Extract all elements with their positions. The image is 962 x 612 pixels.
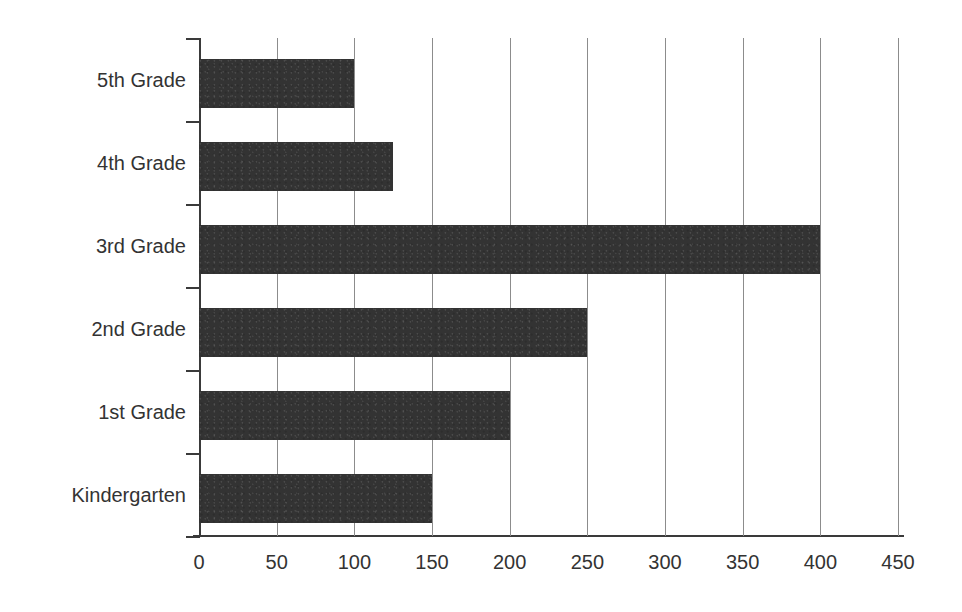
category-label: 4th Grade: [0, 153, 186, 173]
bar: [199, 142, 393, 191]
bar: [199, 59, 354, 108]
gridline-450: [898, 38, 899, 536]
x-axis-tick-label: 250: [542, 551, 632, 573]
bar-band: [199, 453, 898, 536]
x-axis-tick-label: 400: [775, 551, 865, 573]
category-label: 3rd Grade: [0, 236, 186, 256]
y-axis-tick: [186, 370, 200, 372]
bar: [199, 308, 587, 357]
bar-chart: 5th Grade4th Grade3rd Grade2nd Grade1st …: [0, 0, 962, 612]
bar-band: [199, 287, 898, 370]
bar: [199, 391, 510, 440]
y-axis-tick: [186, 38, 200, 40]
plot-area: [199, 38, 898, 536]
x-axis-tick-label: 450: [853, 551, 943, 573]
x-axis-tick-label: 0: [154, 551, 244, 573]
bar-texture: [199, 225, 820, 274]
bar-texture: [199, 59, 354, 108]
bar-texture: [199, 308, 587, 357]
x-axis-tick-label: 50: [232, 551, 322, 573]
bar: [199, 474, 432, 523]
y-axis-tick: [186, 453, 200, 455]
x-axis-tick-label: 200: [465, 551, 555, 573]
bar-texture: [199, 391, 510, 440]
category-label: 1st Grade: [0, 402, 186, 422]
category-label: Kindergarten: [0, 485, 186, 505]
bar-texture: [199, 474, 432, 523]
x-axis-tick-label: 100: [309, 551, 399, 573]
bar-band: [199, 204, 898, 287]
category-label: 2nd Grade: [0, 319, 186, 339]
bar-band: [199, 38, 898, 121]
x-axis-tick-label: 350: [698, 551, 788, 573]
bar-band: [199, 370, 898, 453]
bar-texture: [199, 142, 393, 191]
x-axis-tick-label: 150: [387, 551, 477, 573]
y-axis-tick: [186, 536, 200, 538]
y-axis-tick: [186, 121, 200, 123]
y-axis-tick: [186, 204, 200, 206]
x-axis-tick-label: 300: [620, 551, 710, 573]
bar-band: [199, 121, 898, 204]
category-label: 5th Grade: [0, 70, 186, 90]
bar: [199, 225, 820, 274]
y-axis-tick: [186, 287, 200, 289]
